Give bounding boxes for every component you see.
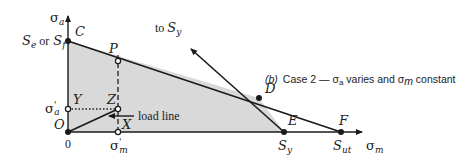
sut-axis-label: Sut bbox=[333, 138, 352, 155]
label-C: C bbox=[75, 24, 85, 39]
load-line-label: load line bbox=[138, 109, 180, 123]
label-O: O bbox=[54, 117, 65, 132]
sy-axis-label: Sy bbox=[278, 138, 293, 155]
point-P bbox=[115, 58, 120, 63]
label-Y: Y bbox=[73, 92, 83, 107]
point-Z bbox=[115, 106, 120, 111]
origin-tick-label: 0 bbox=[65, 137, 71, 151]
label-X: X bbox=[121, 117, 132, 132]
point-E bbox=[281, 129, 287, 135]
sigma-a-prime-label: σ'a bbox=[45, 100, 60, 117]
point-O bbox=[65, 129, 71, 135]
point-F bbox=[338, 129, 344, 135]
label-F: F bbox=[338, 113, 349, 128]
caption: (b)Case 2 — σa varies and σm constant bbox=[265, 73, 456, 87]
x-axis-label: σm bbox=[366, 138, 383, 155]
y-axis-label: σa bbox=[50, 10, 64, 27]
point-D bbox=[256, 95, 262, 101]
label-Z: Z bbox=[106, 92, 117, 107]
point-C bbox=[65, 38, 71, 44]
label-E: E bbox=[287, 113, 298, 128]
sigma-m-prime-label: σ'm bbox=[110, 137, 128, 155]
to-sy-label: to Sy bbox=[155, 20, 182, 37]
se-or-sf-label: SeorSf bbox=[22, 33, 67, 50]
label-P: P bbox=[108, 41, 118, 56]
point-Y bbox=[65, 106, 70, 111]
point-X bbox=[115, 129, 120, 134]
goodman-diagram: σa σm SeorSf C P Z Y X O D E F σ'a 0 σ'm… bbox=[0, 0, 463, 162]
